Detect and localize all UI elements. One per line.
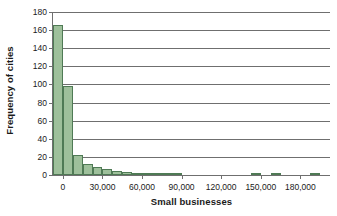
gridline — [53, 157, 330, 158]
histogram-bar — [93, 167, 103, 175]
histogram-bar — [132, 173, 142, 175]
y-tick-mark — [49, 12, 53, 13]
plot-area: 020406080100120140160180 030,00060,00090… — [53, 12, 330, 175]
y-tick-label: 100 — [33, 79, 47, 89]
y-tick-label: 180 — [33, 7, 47, 17]
gridline — [53, 84, 330, 85]
histogram-bar — [162, 173, 172, 175]
histogram-bar — [271, 173, 281, 175]
x-tick-mark — [182, 175, 183, 179]
gridline — [53, 66, 330, 67]
gridline — [53, 103, 330, 104]
y-tick-label: 160 — [33, 25, 47, 35]
x-tick-label: 90,000 — [169, 182, 195, 192]
gridline — [53, 12, 330, 13]
histogram-bar — [122, 172, 132, 175]
x-tick-mark — [300, 175, 301, 179]
x-tick-label: 180,000 — [285, 182, 316, 192]
histogram-bar — [310, 173, 320, 175]
histogram-bar — [102, 169, 112, 175]
histogram-bar — [83, 164, 93, 175]
x-tick-mark — [221, 175, 222, 179]
gridline — [53, 48, 330, 49]
histogram-bar — [142, 173, 152, 175]
y-tick-label: 120 — [33, 61, 47, 71]
x-tick-mark — [63, 175, 64, 179]
histogram-bar — [251, 173, 261, 175]
y-tick-label: 40 — [38, 134, 47, 144]
x-axis-line — [52, 175, 330, 176]
histogram-bar — [112, 171, 122, 175]
histogram-bar — [53, 25, 63, 175]
gridline — [53, 139, 330, 140]
histogram-bar — [73, 155, 83, 175]
y-tick-label: 20 — [38, 152, 47, 162]
gridline — [53, 30, 330, 31]
y-tick-label: 140 — [33, 43, 47, 53]
gridline — [53, 121, 330, 122]
x-tick-mark — [261, 175, 262, 179]
y-tick-label: 0 — [42, 170, 47, 180]
histogram-figure: Frequency of cities 02040608010012014016… — [0, 0, 337, 216]
histogram-bar — [172, 173, 182, 175]
x-tick-label: 120,000 — [206, 182, 237, 192]
histogram-bar — [152, 173, 162, 175]
x-tick-label: 0 — [61, 182, 66, 192]
y-axis-title-text: Frequency of cities — [4, 46, 15, 134]
y-axis-title: Frequency of cities — [0, 0, 18, 180]
x-tick-label: 30,000 — [89, 182, 115, 192]
x-tick-mark — [102, 175, 103, 179]
x-axis-title: Small businesses — [53, 196, 330, 207]
x-tick-label: 60,000 — [129, 182, 155, 192]
histogram-bar — [63, 86, 73, 175]
x-tick-label: 150,000 — [245, 182, 276, 192]
x-tick-mark — [142, 175, 143, 179]
y-tick-label: 80 — [38, 98, 47, 108]
y-tick-label: 60 — [38, 116, 47, 126]
y-tick-mark — [49, 175, 53, 176]
